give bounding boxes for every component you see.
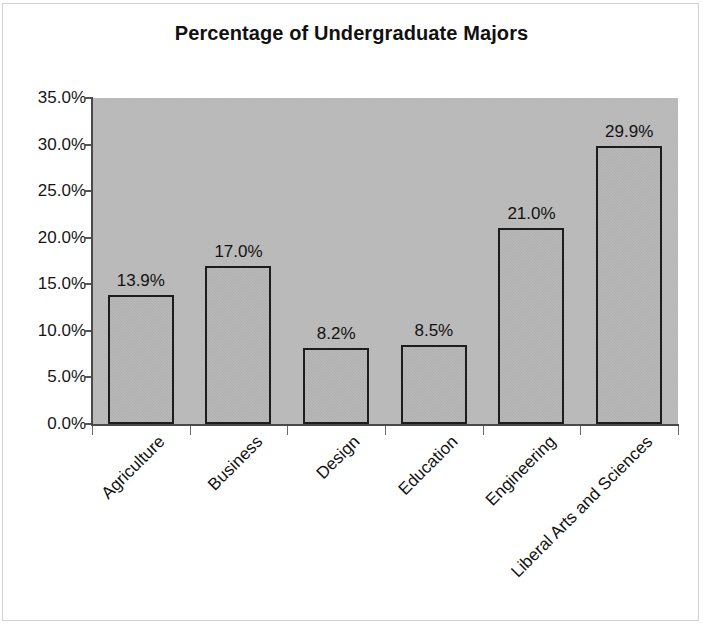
x-axis-category-label: Agriculture: [97, 432, 169, 504]
y-axis-tick-label: 35.0%: [8, 88, 86, 108]
bar-slot: 13.9%: [92, 98, 190, 424]
bar-slot: 8.5%: [385, 98, 483, 424]
bar-value-label: 8.2%: [317, 324, 356, 344]
bar-value-label: 8.5%: [414, 321, 453, 341]
x-axis-tick-mark: [678, 426, 679, 435]
bar[interactable]: [205, 266, 271, 424]
x-axis-category-label: Business: [204, 432, 267, 495]
x-axis-tick-mark: [580, 426, 581, 435]
x-axis-category-label: Education: [394, 432, 462, 500]
bar-value-label: 13.9%: [117, 271, 165, 291]
x-axis-tick-mark: [92, 426, 93, 435]
bar-slot: 29.9%: [580, 98, 678, 424]
x-axis-tick-mark: [190, 426, 191, 435]
x-axis-category-label: Design: [313, 432, 365, 484]
bar-slot: 8.2%: [287, 98, 385, 424]
bar-slot: 21.0%: [483, 98, 581, 424]
bar-value-label: 21.0%: [507, 204, 555, 224]
y-axis-tick-label: 0.0%: [8, 414, 86, 434]
bar[interactable]: [498, 228, 564, 424]
x-axis-tick-mark: [483, 426, 484, 435]
chart-page: Percentage of Undergraduate Majors 0.0%5…: [0, 0, 703, 626]
bar-slot: 17.0%: [190, 98, 288, 424]
y-axis-tick-label: 30.0%: [8, 135, 86, 155]
bar[interactable]: [401, 345, 467, 424]
x-axis-tick-mark: [287, 426, 288, 435]
x-axis-category-label: Engineering: [481, 432, 559, 510]
bar[interactable]: [303, 348, 369, 424]
bar-value-label: 29.9%: [605, 122, 653, 142]
y-axis-tick-label: 20.0%: [8, 228, 86, 248]
bar[interactable]: [108, 295, 174, 424]
bar[interactable]: [596, 146, 662, 424]
x-axis-tick-mark: [385, 426, 386, 435]
y-axis-tick-label: 25.0%: [8, 181, 86, 201]
y-axis-tick-label: 5.0%: [8, 367, 86, 387]
y-axis: 0.0%5.0%10.0%15.0%20.0%25.0%30.0%35.0%: [0, 0, 86, 626]
y-axis-tick-label: 10.0%: [8, 321, 86, 341]
bar-value-label: 17.0%: [214, 242, 262, 262]
page-title: Percentage of Undergraduate Majors: [0, 22, 703, 45]
y-axis-tick-label: 15.0%: [8, 274, 86, 294]
